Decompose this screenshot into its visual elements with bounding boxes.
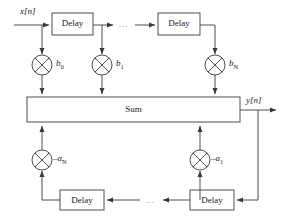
ff-ellipsis: ... xyxy=(119,21,128,29)
coefficient-sub-b1: 1 xyxy=(121,63,124,70)
mult-b1-circle xyxy=(92,55,112,75)
input-signal-label: x[n] xyxy=(20,7,36,16)
fb-ellipsis: ... xyxy=(146,197,155,205)
coefficient-label-b0: b0 xyxy=(56,59,64,70)
mult-aN-circle xyxy=(32,150,52,170)
coefficient-base-a1: –a xyxy=(211,153,220,163)
coefficient-sub-bN: N xyxy=(234,63,239,70)
output-signal-label: y[n] xyxy=(246,96,262,105)
filter-block-diagram: x[n] y[n] Delay Delay ... Sum Delay Dela… xyxy=(0,0,284,219)
coefficient-sub-aN: N xyxy=(62,158,67,165)
mult-a1-circle xyxy=(190,150,210,170)
mult-b0-circle xyxy=(32,55,52,75)
fb-delay-label-2: Delay xyxy=(190,195,234,205)
coefficient-label-b1: b1 xyxy=(116,59,124,70)
fb-delay-label-1: Delay xyxy=(60,195,104,205)
coefficient-label-aN: –aN xyxy=(53,154,67,165)
ff-tap-bN xyxy=(200,25,215,54)
coefficient-label-bN: bN xyxy=(229,59,238,70)
coefficient-sub-a1: 1 xyxy=(220,158,223,165)
mult-bN-circle xyxy=(205,55,225,75)
sum-block-label: Sum xyxy=(27,104,240,114)
ff-delay-label-1: Delay xyxy=(52,18,93,28)
coefficient-label-a1: –a1 xyxy=(211,154,223,165)
coefficient-sub-b0: 0 xyxy=(61,63,64,70)
ff-delay-label-2: Delay xyxy=(158,18,200,28)
coefficient-base-aN: –a xyxy=(53,153,62,163)
feedback-tap xyxy=(237,110,258,200)
fb-tap-aN xyxy=(42,171,60,200)
